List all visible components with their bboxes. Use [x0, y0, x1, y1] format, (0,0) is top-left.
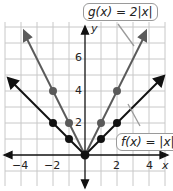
x-axis-label: x [162, 159, 169, 172]
x-tick-neg4: −4 [12, 159, 28, 172]
x-tick-neg2: −2 [44, 159, 60, 172]
y-axis-label: y [91, 22, 98, 35]
y-tick-2: 2 [75, 116, 82, 129]
y-tick-6: 6 [75, 51, 82, 64]
x-tick-4: 4 [146, 159, 153, 172]
f-callout: f(x) = |x| [116, 133, 173, 151]
y-tick-4: 4 [75, 84, 82, 97]
g-callout: g(x) = 2|x| [83, 3, 158, 21]
x-tick-2: 2 [113, 159, 120, 172]
